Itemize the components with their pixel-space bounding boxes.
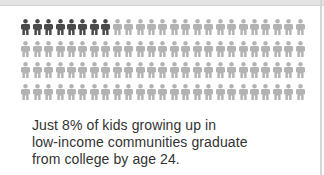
person-icon — [214, 19, 225, 35]
person-icon — [123, 84, 134, 100]
person-icon — [249, 41, 260, 57]
person-icon — [283, 62, 294, 78]
person-icon — [100, 41, 111, 57]
person-icon-highlighted — [43, 19, 54, 35]
person-icon — [146, 41, 157, 57]
person-icon — [283, 19, 294, 35]
person-icon — [157, 84, 168, 100]
person-icon — [100, 62, 111, 78]
person-icon — [123, 62, 134, 78]
person-icon — [180, 84, 191, 100]
person-icon — [89, 84, 100, 100]
pictogram-row — [20, 84, 310, 106]
person-icon — [157, 62, 168, 78]
person-icon — [157, 19, 168, 35]
person-icon — [272, 62, 283, 78]
person-icon — [66, 62, 77, 78]
person-icon — [180, 41, 191, 57]
person-icon — [169, 84, 180, 100]
person-icon-highlighted — [66, 19, 77, 35]
person-icon — [295, 41, 306, 57]
person-icon — [203, 41, 214, 57]
person-icon — [54, 62, 65, 78]
person-icon — [237, 41, 248, 57]
person-icon — [192, 84, 203, 100]
person-icon — [146, 19, 157, 35]
person-icon — [134, 19, 145, 35]
person-icon — [134, 84, 145, 100]
person-icon — [77, 84, 88, 100]
person-icon — [100, 84, 111, 100]
person-icon — [54, 41, 65, 57]
person-icon — [123, 19, 134, 35]
person-icon — [20, 84, 31, 100]
person-icon — [180, 62, 191, 78]
person-icon — [249, 62, 260, 78]
person-icon — [66, 41, 77, 57]
person-icon-highlighted — [89, 19, 100, 35]
person-icon — [260, 19, 271, 35]
person-icon — [226, 41, 237, 57]
person-icon — [260, 62, 271, 78]
person-icon — [272, 41, 283, 57]
top-bar — [0, 0, 324, 6]
person-icon — [54, 84, 65, 100]
person-icon — [31, 84, 42, 100]
person-icon — [43, 62, 54, 78]
person-icon — [66, 84, 77, 100]
person-icon-highlighted — [100, 19, 111, 35]
frame-border — [320, 0, 322, 175]
person-icon — [260, 41, 271, 57]
person-icon — [112, 62, 123, 78]
person-icon — [77, 62, 88, 78]
caption-line: from college by age 24. — [32, 151, 312, 168]
person-icon — [226, 84, 237, 100]
person-icon — [203, 84, 214, 100]
person-icon — [157, 41, 168, 57]
person-icon — [203, 19, 214, 35]
person-icon — [112, 19, 123, 35]
person-icon — [89, 41, 100, 57]
person-icon — [123, 41, 134, 57]
person-icon — [146, 84, 157, 100]
person-icon — [249, 19, 260, 35]
person-icon — [146, 62, 157, 78]
person-icon — [237, 62, 248, 78]
person-icon — [214, 41, 225, 57]
person-icon — [192, 62, 203, 78]
person-icon — [169, 62, 180, 78]
person-icon-highlighted — [77, 19, 88, 35]
caption: Just 8% of kids growing up in low-income… — [32, 117, 312, 168]
person-icon — [203, 62, 214, 78]
person-icon — [214, 62, 225, 78]
person-icon — [31, 62, 42, 78]
caption-line: low-income communities graduate — [32, 134, 312, 151]
person-icon-highlighted — [31, 19, 42, 35]
person-icon — [20, 62, 31, 78]
person-icon — [226, 62, 237, 78]
person-icon — [43, 84, 54, 100]
person-icon — [249, 84, 260, 100]
person-icon — [272, 84, 283, 100]
person-icon — [272, 19, 283, 35]
caption-line: Just 8% of kids growing up in — [32, 117, 312, 134]
person-icon — [295, 84, 306, 100]
person-icon — [112, 84, 123, 100]
person-icon — [192, 19, 203, 35]
person-icon — [260, 84, 271, 100]
pictogram-row — [20, 62, 310, 84]
person-icon — [237, 84, 248, 100]
person-icon-highlighted — [54, 19, 65, 35]
person-icon — [226, 19, 237, 35]
person-icon — [169, 19, 180, 35]
person-icon — [295, 62, 306, 78]
person-icon — [43, 41, 54, 57]
person-icon — [295, 19, 306, 35]
person-icon — [134, 62, 145, 78]
person-icon — [214, 84, 225, 100]
person-icon — [112, 41, 123, 57]
person-icon — [77, 41, 88, 57]
pictogram-row — [20, 41, 310, 63]
person-icon — [31, 41, 42, 57]
person-icon — [192, 41, 203, 57]
